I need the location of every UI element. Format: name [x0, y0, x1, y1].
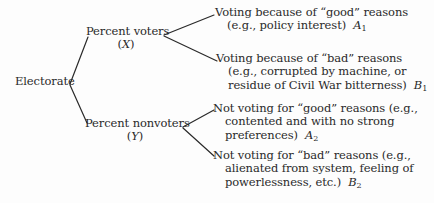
tree-diagram: Electorate Percent voters (X) Percent no… [0, 0, 434, 203]
leaf-line: Not voting for “bad” reasons (e.g., [213, 149, 413, 162]
root-label: Electorate [15, 74, 75, 88]
leaf-symbol: B [414, 78, 422, 92]
branch-variable: (X) [86, 38, 166, 51]
leaf-line: residue of Civil War bitterness) B1 [216, 79, 427, 92]
leaf-line: (e.g., policy interest) A1 [215, 19, 408, 32]
leaf-line: Voting because of “bad” reasons [216, 52, 427, 65]
leaf-not-voting-bad-reasons: Not voting for “bad” reasons (e.g., alie… [213, 149, 413, 189]
leaf-line: preferences) A2 [213, 129, 418, 142]
edge-voters-good [164, 15, 214, 35]
edge-voters-bad [164, 36, 217, 61]
leaf-voting-good-reasons: Voting because of “good” reasons (e.g., … [215, 6, 408, 33]
leaf-symbol: B [348, 175, 356, 189]
leaf-subscript: 1 [361, 24, 366, 33]
leaf-subscript: 1 [422, 84, 427, 93]
leaf-subscript: 2 [357, 181, 362, 190]
leaf-line: contented and with no strong [213, 115, 418, 128]
leaf-line: Voting because of “good” reasons [215, 6, 408, 19]
leaf-not-voting-good-reasons: Not voting for “good” reasons (e.g., con… [213, 102, 418, 142]
leaf-line: (e.g., corrupted by machine, or [216, 65, 427, 78]
root-node-electorate: Electorate [15, 75, 75, 88]
edge-nonvoters-bad [183, 128, 214, 156]
leaf-line: alienated from system, feeling of [213, 162, 413, 175]
leaf-voting-bad-reasons: Voting because of “bad” reasons (e.g., c… [216, 52, 427, 92]
leaf-symbol: A [305, 128, 313, 142]
branch-node-nonvoters: Percent nonvoters (Y) [85, 117, 185, 143]
branch-node-voters: Percent voters (X) [86, 25, 166, 51]
leaf-line: powerlessness, etc.) B2 [213, 176, 413, 189]
leaf-subscript: 2 [313, 134, 318, 143]
branch-variable: (Y) [85, 130, 185, 143]
leaf-line: Not voting for “good” reasons (e.g., [213, 102, 418, 115]
